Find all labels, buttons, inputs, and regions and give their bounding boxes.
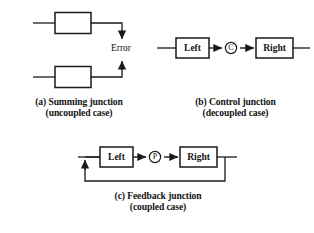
caption-c-line2: (coupled case) (84, 201, 232, 212)
panel-b-junction-symbol: C (228, 43, 233, 52)
panel-a-upper-block (55, 13, 91, 34)
panel-c-junction-symbol: P (153, 152, 158, 161)
panel-b-left-block-label: Left (184, 43, 202, 53)
caption-b-line1: (b) Control junction (195, 96, 275, 107)
panel-a-lower-output-line (91, 68, 122, 77)
panel-a-summing-junction: Error (33, 13, 132, 88)
panel-c-right-block-label: Right (187, 152, 211, 162)
caption-panel-b: (b) Control junction (decoupled case) (163, 96, 308, 119)
panel-c-feedback-junction: Left P Right (78, 147, 237, 181)
panel-b-right-block-label: Right (263, 43, 287, 53)
panel-c-left-block-label: Left (108, 152, 126, 162)
caption-a-line1: (a) Summing junction (35, 96, 123, 107)
caption-b-line2: (decoupled case) (163, 107, 308, 118)
caption-a-line2: (uncoupled case) (8, 107, 150, 118)
caption-c-line1: (c) Feedback junction (115, 190, 202, 201)
figure-root: Error Left C Right Left P Right (0, 0, 314, 233)
panel-a-upper-output-line (91, 23, 122, 33)
panel-b-control-junction: Left C Right (157, 38, 310, 58)
caption-panel-c: (c) Feedback junction (coupled case) (84, 190, 232, 213)
caption-panel-a: (a) Summing junction (uncoupled case) (8, 96, 150, 119)
panel-a-lower-block (55, 67, 91, 88)
error-label: Error (111, 43, 132, 53)
